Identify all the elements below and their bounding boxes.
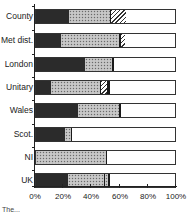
bar-segment-dotted [61, 34, 119, 47]
category-label: Wales [10, 105, 33, 115]
stacked-bar-chart: CountyMet dist.LondonUnitaryWalesScot.NI… [0, 0, 190, 215]
caption: The... [2, 206, 20, 213]
x-axis [34, 186, 177, 187]
category-label: UK [21, 175, 33, 185]
bar-met-dist [35, 33, 176, 48]
bar-segment-dark [36, 10, 69, 23]
x-tick-label: 100% [166, 192, 186, 201]
bar-segment-white [107, 151, 175, 164]
category-label: County [6, 11, 33, 21]
bar-scot [35, 127, 176, 142]
bar-ni [35, 150, 176, 165]
bar-segment-hatch [111, 10, 126, 23]
bar-segment-white [121, 104, 175, 117]
bar-segment-white [110, 81, 175, 94]
bar-segment-dotted [78, 104, 120, 117]
bar-segment-white [72, 128, 175, 141]
bar-segment-dark [36, 104, 78, 117]
x-tick [34, 184, 35, 188]
bar-segment-dark [36, 81, 51, 94]
x-tick-label: 40% [83, 192, 99, 201]
x-tick [175, 184, 176, 188]
bar-segment-dark [36, 34, 61, 47]
bar-segment-white [126, 10, 175, 23]
category-label: NI [25, 152, 34, 162]
category-label: Met dist. [1, 35, 33, 45]
x-tick-label: 0% [29, 192, 41, 201]
bar-segment-dark [36, 58, 85, 71]
x-tick [147, 184, 148, 188]
y-axis [34, 4, 35, 186]
bar-segment-dotted [85, 58, 113, 71]
bar-segment-dotted [51, 81, 100, 94]
bar-county [35, 9, 176, 24]
category-label: Scot. [14, 129, 33, 139]
category-label: London [5, 59, 33, 69]
bar-wales [35, 103, 176, 118]
bar-segment-white [125, 34, 175, 47]
bar-segment-dark [36, 128, 65, 141]
category-label: Unitary [6, 82, 33, 92]
x-tick-label: 60% [112, 192, 128, 201]
bar-london [35, 57, 176, 72]
bar-unitary [35, 80, 176, 95]
bar-segment-white [114, 58, 175, 71]
bar-segment-dotted [69, 10, 109, 23]
x-tick-label: 20% [55, 192, 71, 201]
bar-segment-dotted [36, 151, 106, 164]
x-tick [62, 184, 63, 188]
x-tick-label: 80% [140, 192, 156, 201]
x-tick [119, 184, 120, 188]
x-tick [90, 184, 91, 188]
